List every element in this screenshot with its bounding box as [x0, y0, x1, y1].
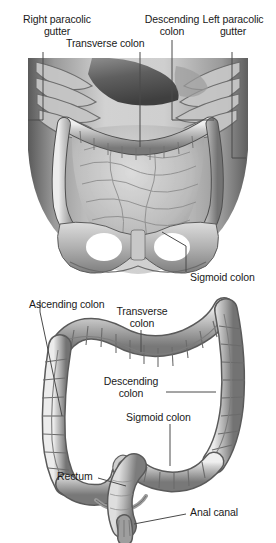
- pelvis: [58, 222, 219, 273]
- left-obturator-foramen: [86, 233, 122, 261]
- label-sigmoid-colon-upper: Sigmoid colon: [190, 272, 255, 284]
- label-left-paracolic-gutter: Left paracolic gutter: [190, 14, 276, 37]
- leader-anal-canal: [134, 514, 186, 524]
- upper-abdominal-illustration: [28, 58, 248, 274]
- label-rectum-line1: Rectum: [57, 471, 93, 483]
- label-transverse-colon-upper-line1: Transverse colon: [66, 38, 145, 50]
- label-left-paracolic-gutter-line2: gutter: [190, 26, 276, 38]
- label-transverse-colon-lower-line2: colon: [113, 318, 171, 330]
- label-ascending-colon: Ascending colon: [29, 299, 105, 311]
- label-sigmoid-colon-lower: Sigmoid colon: [126, 412, 191, 424]
- sacrum-pubis: [131, 230, 145, 260]
- label-anal-canal: Anal canal: [190, 507, 238, 519]
- label-descending-colon-lower: Descending colon: [100, 376, 162, 399]
- label-anal-canal-line1: Anal canal: [190, 507, 238, 519]
- label-left-paracolic-gutter-line1: Left paracolic: [190, 14, 276, 26]
- label-descending-colon-lower-line2: colon: [100, 388, 162, 400]
- label-descending-colon-lower-line1: Descending: [100, 376, 162, 388]
- label-right-paracolic-gutter-line1: Right paracolic: [2, 14, 112, 26]
- label-right-paracolic-gutter: Right paracolic gutter: [2, 14, 112, 37]
- label-transverse-colon-lower-line1: Transverse: [113, 306, 171, 318]
- label-transverse-colon-lower: Transverse colon: [113, 306, 171, 329]
- label-transverse-colon-upper: Transverse colon: [66, 38, 145, 50]
- right-obturator-foramen: [154, 233, 190, 261]
- label-sigmoid-colon-upper-line1: Sigmoid colon: [190, 272, 255, 284]
- label-rectum: Rectum: [57, 471, 93, 483]
- anatomy-figure: Right paracolic gutter Transverse colon …: [0, 0, 276, 543]
- label-ascending-colon-line1: Ascending colon: [29, 299, 105, 311]
- label-right-paracolic-gutter-line2: gutter: [2, 26, 112, 38]
- label-sigmoid-colon-lower-line1: Sigmoid colon: [126, 412, 191, 424]
